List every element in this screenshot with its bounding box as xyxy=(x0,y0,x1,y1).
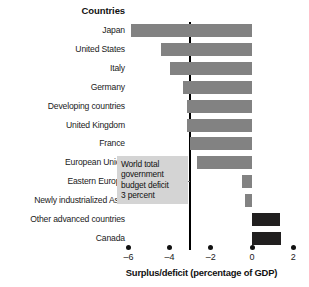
x-axis-tick-dot xyxy=(291,245,296,250)
x-axis-tick-dot xyxy=(167,245,172,250)
x-axis-tick-dot xyxy=(250,245,255,250)
x-axis-tick-dot xyxy=(126,245,131,250)
x-axis-tick-label: –2 xyxy=(200,252,222,262)
x-axis-tick-label: –4 xyxy=(159,252,181,262)
x-axis-tick-dot xyxy=(208,245,213,250)
x-axis-tick-label: –6 xyxy=(117,252,139,262)
x-axis-title: Surplus/deficit (percentage of GDP) xyxy=(94,267,309,278)
budget-deficit-bar-chart: Countries JapanUnited StatesItalyGermany… xyxy=(0,0,309,287)
x-axis-tick-label: 2 xyxy=(282,252,304,262)
x-axis: –6–4–202 xyxy=(0,0,309,287)
x-axis-tick-label: 0 xyxy=(241,252,263,262)
